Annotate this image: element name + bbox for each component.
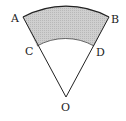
label-C: C	[25, 45, 33, 58]
label-A: A	[10, 12, 20, 25]
diagram-canvas: A B C D O	[0, 0, 126, 121]
sector-diagram: A B C D O	[0, 0, 126, 121]
label-B: B	[111, 13, 119, 26]
label-O: O	[61, 101, 70, 114]
label-D: D	[96, 46, 105, 59]
